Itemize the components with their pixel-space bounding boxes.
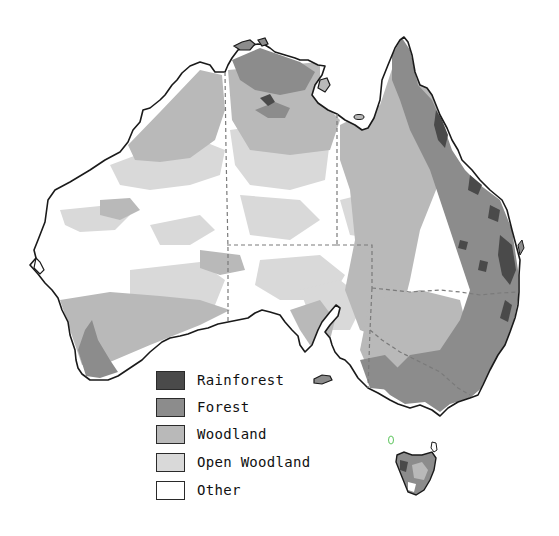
legend-label: Other: [197, 482, 241, 498]
other-swatch: [156, 481, 185, 500]
legend-item-rainforest: Rainforest: [156, 369, 284, 391]
legend-label: Rainforest: [197, 372, 284, 388]
legend-label: Woodland: [197, 426, 267, 442]
tasmania: [396, 452, 436, 495]
woodland-swatch: [156, 425, 185, 444]
fraser-island: [518, 240, 524, 255]
rainforest-swatch: [156, 371, 185, 390]
legend-item-woodland: Woodland: [156, 423, 267, 445]
legend-item-forest: Forest: [156, 396, 249, 418]
legend-label: Open Woodland: [197, 454, 310, 470]
kangaroo-island: [314, 375, 332, 384]
open-woodland-swatch: [156, 453, 185, 472]
melville-island: [234, 40, 255, 50]
legend-item-other: Other: [156, 479, 241, 501]
groote-eylandt: [318, 78, 330, 92]
legend-item-open-woodland: Open Woodland: [156, 451, 310, 473]
mornington-island: [354, 115, 364, 120]
flinders-island: [431, 442, 437, 452]
legend-label: Forest: [197, 399, 249, 415]
king-island: [389, 436, 394, 444]
forest-swatch: [156, 398, 185, 417]
